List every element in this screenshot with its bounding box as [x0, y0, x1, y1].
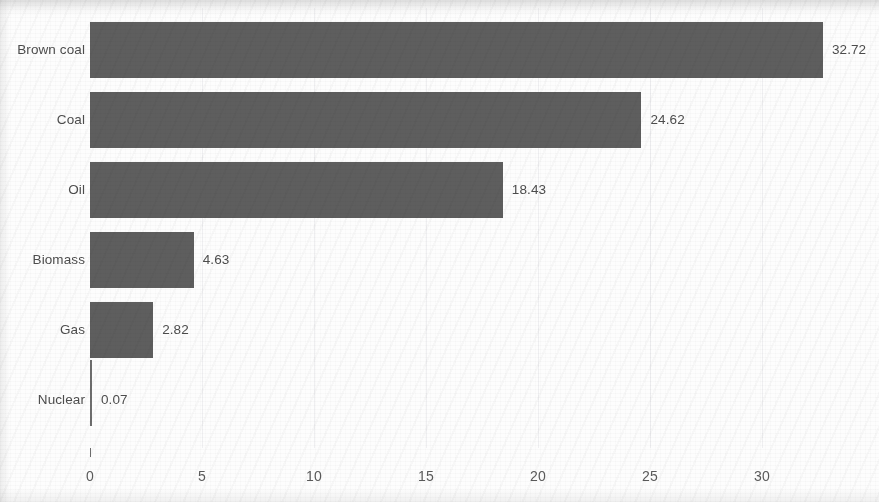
x-axis-origin-tick — [90, 448, 91, 457]
bar-row: Gas2.82 — [0, 302, 879, 358]
x-axis-tick-label: 10 — [306, 468, 322, 484]
category-label-oil: Oil — [68, 182, 85, 197]
x-axis-tick-label: 25 — [642, 468, 658, 484]
value-label-coal: 24.62 — [650, 112, 684, 127]
bar-gas — [90, 302, 153, 358]
plot-area: 051015202530 Brown coal32.72Coal24.62Oil… — [0, 0, 879, 502]
x-axis-tick-label: 5 — [198, 468, 206, 484]
bar-brown-coal — [90, 22, 823, 78]
category-label-gas: Gas — [60, 322, 85, 337]
x-axis-tick-label: 20 — [530, 468, 546, 484]
category-label-coal: Coal — [57, 112, 85, 127]
value-label-oil: 18.43 — [512, 182, 546, 197]
bar-nuclear — [90, 360, 92, 426]
x-axis-tick-label: 0 — [86, 468, 94, 484]
x-axis-tick-label: 30 — [754, 468, 770, 484]
category-label-biomass: Biomass — [33, 252, 85, 267]
value-label-biomass: 4.63 — [203, 252, 230, 267]
bar-row: Coal24.62 — [0, 92, 879, 148]
bar-coal — [90, 92, 641, 148]
value-label-brown-coal: 32.72 — [832, 42, 866, 57]
bar-row: Biomass4.63 — [0, 232, 879, 288]
bar-row: Brown coal32.72 — [0, 22, 879, 78]
value-label-nuclear: 0.07 — [101, 392, 128, 407]
bar-row: Nuclear0.07 — [0, 372, 879, 428]
value-label-gas: 2.82 — [162, 322, 189, 337]
bar-row: Oil18.43 — [0, 162, 879, 218]
bar-biomass — [90, 232, 194, 288]
category-label-nuclear: Nuclear — [38, 392, 85, 407]
bar-chart: 051015202530 Brown coal32.72Coal24.62Oil… — [0, 0, 879, 502]
x-axis-tick-label: 15 — [418, 468, 434, 484]
bar-oil — [90, 162, 503, 218]
category-label-brown-coal: Brown coal — [17, 42, 85, 57]
